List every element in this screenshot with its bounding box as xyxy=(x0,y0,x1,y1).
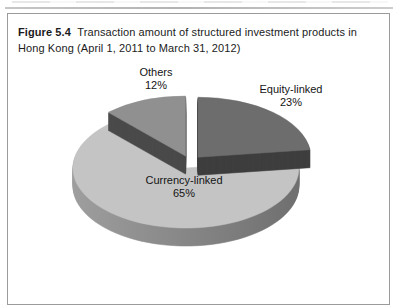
slice-label-equity-name: Equity-linked xyxy=(260,83,323,96)
slice-label-equity-pct: 23% xyxy=(260,96,323,109)
slice-label-equity-linked: Equity-linked 23% xyxy=(260,83,323,108)
slice-label-currency-pct: 65% xyxy=(145,187,222,200)
slice-label-others: Others 12% xyxy=(139,66,172,91)
slice-label-currency-name: Currency-linked xyxy=(145,174,222,187)
slice-label-currency-linked: Currency-linked 65% xyxy=(145,174,222,199)
slice-label-others-pct: 12% xyxy=(139,79,172,92)
slice-label-others-name: Others xyxy=(139,66,172,79)
